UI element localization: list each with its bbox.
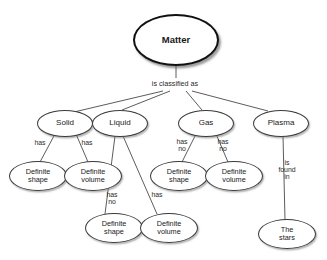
node-label-solid: Solid: [54, 119, 76, 127]
node-label-matter: Matter: [160, 35, 193, 45]
edge-hub-to-plasma: [192, 91, 268, 111]
node-liquid-shape[interactable]: Definite shape: [85, 213, 143, 243]
edge-label-solid-has-2: has: [76, 140, 98, 147]
node-plasma[interactable]: Plasma: [253, 110, 309, 137]
node-solid[interactable]: Solid: [37, 110, 93, 137]
edge-label-plasma-found: is found in: [274, 160, 300, 181]
node-gas-shape[interactable]: Definite shape: [150, 161, 208, 191]
node-label-liquid-volume: Definite volume: [155, 220, 184, 235]
node-gas[interactable]: Gas: [178, 110, 234, 137]
edge-label-solid-has-1: has: [29, 140, 51, 147]
edge-hub-to-gas: [186, 91, 202, 110]
node-label-gas: Gas: [197, 119, 216, 127]
node-solid-shape[interactable]: Definite shape: [9, 161, 67, 191]
node-gas-volume[interactable]: Definite volume: [205, 161, 263, 191]
edge-label-classified: is classified as: [139, 80, 211, 87]
node-matter[interactable]: Matter: [133, 14, 219, 66]
node-label-stars: The stars: [277, 226, 297, 241]
node-label-gas-volume: Definite volume: [220, 168, 249, 183]
node-label-liquid: Liquid: [107, 119, 132, 127]
node-liquid[interactable]: Liquid: [92, 110, 148, 137]
edge-label-gas-hasno-1: has no: [171, 139, 193, 153]
concept-map-canvas: MatterSolidLiquidGasPlasmaDefinite shape…: [0, 0, 327, 260]
node-label-plasma: Plasma: [266, 119, 297, 127]
edge-label-liquid-has: has: [146, 192, 168, 199]
node-label-gas-shape: Definite shape: [165, 168, 194, 183]
edge-label-liquid-hasno: has no: [101, 192, 123, 206]
edge-label-gas-hasno-2: has no: [212, 139, 234, 153]
node-liquid-volume[interactable]: Definite volume: [140, 213, 198, 243]
node-label-solid-shape: Definite shape: [24, 168, 53, 183]
node-stars[interactable]: The stars: [258, 219, 316, 249]
node-label-liquid-shape: Definite shape: [100, 220, 129, 235]
node-label-solid-volume: Definite volume: [79, 168, 108, 183]
edge-hub-to-solid: [74, 91, 163, 112]
node-solid-volume[interactable]: Definite volume: [64, 161, 122, 191]
edge-hub-to-liquid: [122, 91, 170, 110]
